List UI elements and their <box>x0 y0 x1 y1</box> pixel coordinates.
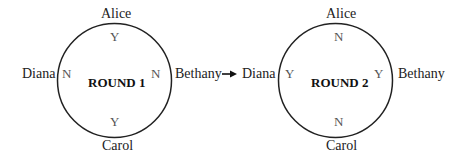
vote-bottom: Y <box>110 114 119 130</box>
person-name-bottom: Carol <box>326 138 357 154</box>
vote-bottom: N <box>334 114 343 130</box>
vote-left: N <box>62 66 71 82</box>
person-name-left: Diana <box>22 66 55 82</box>
person-name-right: Bethany <box>398 66 445 82</box>
vote-right: Y <box>374 66 383 82</box>
person-name-left: Diana <box>242 66 275 82</box>
right-arrow-icon <box>222 71 237 78</box>
round-title: ROUND 2 <box>311 75 368 91</box>
person-name-right: Bethany <box>175 66 222 82</box>
vote-left: Y <box>285 66 294 82</box>
round-title: ROUND 1 <box>88 75 145 91</box>
vote-top: N <box>334 29 343 45</box>
vote-top: Y <box>110 29 119 45</box>
person-name-bottom: Carol <box>102 138 133 154</box>
vote-right: N <box>151 66 160 82</box>
person-name-top: Alice <box>101 6 131 22</box>
person-name-top: Alice <box>326 6 356 22</box>
